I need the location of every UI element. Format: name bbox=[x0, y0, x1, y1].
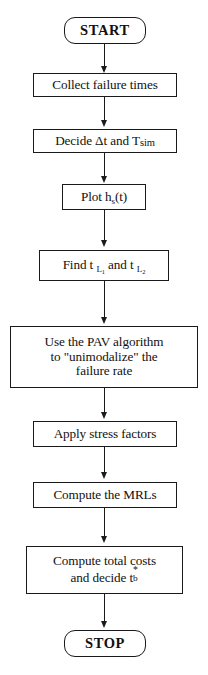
arrowhead-collect-to-decide bbox=[101, 120, 107, 127]
node-start-label: START bbox=[80, 22, 130, 38]
node-plot-hazard-label: Plot hs(t) bbox=[81, 190, 127, 205]
node-decide-timestep: Decide Δt and Tsim bbox=[33, 129, 177, 153]
node-apply-stress-factors-label: Apply stress factors bbox=[54, 427, 157, 442]
node-find-thresholds-label: Find t L1 and t L2 bbox=[63, 258, 146, 273]
arrowhead-costs-to-stop bbox=[101, 621, 107, 628]
node-start: START bbox=[64, 17, 146, 44]
node-stop-label: STOP bbox=[85, 635, 125, 651]
node-plot-hazard: Plot hs(t) bbox=[62, 184, 146, 210]
edge-find-to-pav bbox=[104, 281, 105, 320]
node-compute-mrls: Compute the MRLs bbox=[33, 482, 177, 508]
arrowhead-find-to-pav bbox=[101, 317, 107, 324]
node-compute-mrls-label: Compute the MRLs bbox=[53, 488, 156, 503]
pav-line-1: Use the PAV algorithm bbox=[45, 335, 164, 350]
arrowhead-start-to-collect bbox=[101, 66, 107, 73]
decide-prefix: Decide bbox=[55, 133, 95, 148]
node-find-thresholds: Find t L1 and t L2 bbox=[39, 250, 169, 281]
pav-line-2: to "unimodalize" the bbox=[51, 350, 158, 365]
edge-plot-to-find bbox=[104, 210, 105, 243]
node-decide-timestep-label: Decide Δt and Tsim bbox=[55, 134, 155, 149]
decide-tsim-subscript: sim bbox=[140, 136, 155, 147]
find-subscript-L2: L2 bbox=[137, 264, 146, 274]
costs-line-1: Compute total costs bbox=[53, 554, 156, 569]
node-pav-algorithm: Use the PAV algorithm to "unimodalize" t… bbox=[10, 326, 198, 388]
node-stop: STOP bbox=[64, 630, 146, 657]
arrowhead-mrls-to-costs bbox=[101, 536, 107, 543]
decide-mid: and T bbox=[107, 133, 140, 148]
node-collect-failure-times: Collect failure times bbox=[33, 73, 177, 97]
arrowhead-decide-to-plot bbox=[101, 176, 107, 183]
flowchart-canvas: START Collect failure times Decide Δt an… bbox=[0, 0, 208, 675]
find-subscript-L1: L1 bbox=[96, 264, 105, 274]
arrowhead-plot-to-find bbox=[101, 240, 107, 247]
costs-tb-star: *b bbox=[133, 569, 139, 582]
find-sub2-num: 2 bbox=[142, 268, 145, 275]
decide-delta-t: Δt bbox=[95, 133, 107, 148]
node-apply-stress-factors: Apply stress factors bbox=[33, 421, 177, 447]
arrowhead-apply-to-mrls bbox=[101, 472, 107, 479]
costs-subscript-b: b bbox=[133, 573, 138, 583]
find-prefix: Find t bbox=[63, 257, 97, 272]
find-mid: and t bbox=[105, 257, 137, 272]
costs-line-2-prefix: and decide t bbox=[70, 570, 133, 585]
arrowhead-pav-to-apply bbox=[101, 412, 107, 419]
costs-line-2: and decide t*b bbox=[70, 569, 138, 586]
node-compute-total-costs: Compute total costs and decide t*b bbox=[26, 546, 183, 594]
node-collect-failure-times-label: Collect failure times bbox=[52, 78, 158, 93]
pav-line-3: failure rate bbox=[76, 364, 132, 379]
plot-suffix: (t) bbox=[115, 189, 127, 204]
plot-prefix: Plot h bbox=[81, 189, 112, 204]
